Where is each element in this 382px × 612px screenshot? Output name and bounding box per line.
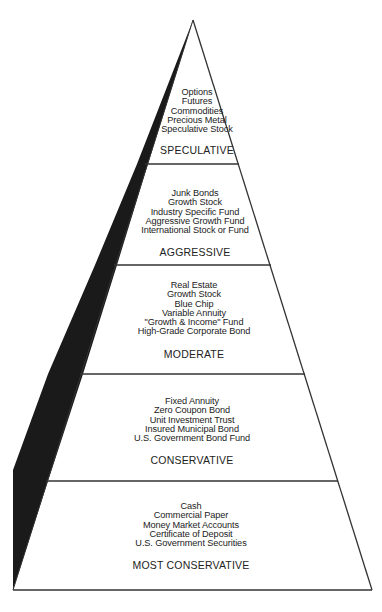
tier-most-conservative: Cash Commercial Paper Money Market Accou… (0, 502, 382, 571)
list-item: Speculative Stock (12, 125, 382, 134)
tier-items: Fixed Annuity Zero Coupon Bond Unit Inve… (2, 397, 382, 443)
tier-items: Junk Bonds Growth Stock Industry Specifi… (8, 189, 382, 235)
tier-label: MOST CONSERVATIVE (0, 559, 382, 571)
list-item: U.S. Government Bond Fund (2, 434, 382, 443)
tier-label: CONSERVATIVE (2, 454, 382, 466)
tier-speculative: Options Futures Commodities Precious Met… (0, 88, 382, 156)
tier-items: Options Futures Commodities Precious Met… (12, 88, 382, 134)
tier-items: Cash Commercial Paper Money Market Accou… (0, 502, 382, 548)
tier-label: AGGRESSIVE (8, 246, 382, 258)
list-item: High-Grade Corporate Bond (6, 327, 382, 336)
tier-aggressive: Junk Bonds Growth Stock Industry Specifi… (0, 189, 382, 258)
tier-label: SPECULATIVE (12, 144, 382, 156)
list-item: International Stock or Fund (8, 226, 382, 235)
tier-label: MODERATE (6, 348, 382, 360)
tier-items: Real Estate Growth Stock Blue Chip Varia… (6, 281, 382, 337)
tier-conservative: Fixed Annuity Zero Coupon Bond Unit Inve… (0, 397, 382, 466)
tier-moderate: Real Estate Growth Stock Blue Chip Varia… (0, 281, 382, 360)
list-item: U.S. Government Securities (0, 539, 382, 548)
